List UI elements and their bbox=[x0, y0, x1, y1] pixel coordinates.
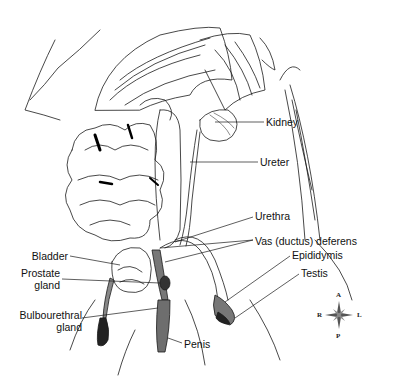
label-penis: Penis bbox=[184, 338, 210, 350]
label-epididymis: Epididymis bbox=[292, 249, 343, 261]
label-prostate-gland: Prostate gland bbox=[14, 267, 60, 291]
compass-posterior: P bbox=[336, 332, 340, 340]
label-ureter: Ureter bbox=[260, 156, 289, 168]
label-testis: Testis bbox=[301, 267, 328, 279]
label-bladder: Bladder bbox=[30, 250, 68, 262]
anatomy-diagram: Kidney Ureter Urethra Vas (ductus) defer… bbox=[0, 0, 394, 390]
label-vas-deferens: Vas (ductus) deferens bbox=[255, 235, 357, 247]
label-kidney: Kidney bbox=[266, 116, 298, 128]
compass-rose-icon bbox=[325, 301, 353, 329]
label-urethra: Urethra bbox=[255, 210, 290, 222]
compass-right: R bbox=[317, 311, 322, 319]
compass-left: L bbox=[357, 311, 362, 319]
label-bulbourethral-gland: Bulbourethral gland bbox=[8, 309, 82, 333]
compass-anterior: A bbox=[336, 291, 341, 299]
